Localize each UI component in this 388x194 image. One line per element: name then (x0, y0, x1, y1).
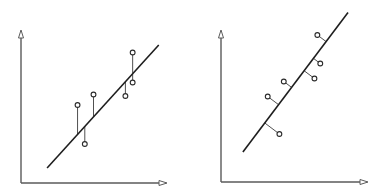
data-point (91, 92, 96, 97)
data-point (315, 33, 320, 38)
regression-line (47, 45, 159, 168)
data-point (130, 50, 135, 55)
panel-perpendicular-residuals (219, 13, 369, 185)
regression-line (243, 13, 348, 153)
x-axis-arrowhead (159, 181, 167, 186)
y-axis-arrowhead (19, 30, 24, 38)
data-point (281, 79, 286, 84)
data-point (318, 61, 323, 66)
data-point (123, 94, 128, 99)
data-point (277, 132, 282, 137)
y-axis-arrowhead (219, 30, 224, 38)
data-point (82, 142, 87, 147)
plot-content (243, 13, 348, 153)
regression-residuals-diagram (0, 0, 388, 194)
plot-content (47, 45, 159, 168)
data-point (312, 76, 317, 81)
panel-vertical-residuals (19, 30, 168, 186)
data-point (130, 80, 135, 85)
data-point (265, 94, 270, 99)
x-axis-arrowhead (360, 180, 368, 185)
data-point (75, 103, 80, 108)
